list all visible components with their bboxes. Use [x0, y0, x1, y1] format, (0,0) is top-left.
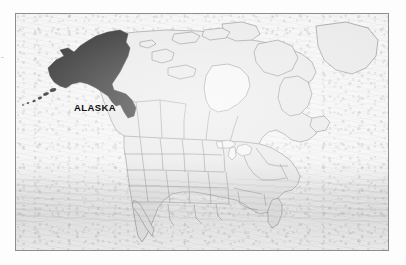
- alaska-offshore-dot: [129, 108, 131, 110]
- greenland-partial: [316, 22, 378, 74]
- map-plate: ALASKA: [15, 13, 389, 251]
- image-canvas: ALASKA: [0, 0, 406, 265]
- arctic-island-melville: [172, 32, 200, 44]
- north-america-map: [16, 14, 389, 251]
- labrador-coast: [278, 76, 312, 116]
- scan-artifact-speck: [1, 57, 4, 58]
- alaska-highlight: [48, 30, 130, 106]
- aleutian-islands: [22, 87, 57, 106]
- alaska-label: ALASKA: [74, 102, 116, 113]
- arctic-island-devon: [202, 28, 230, 40]
